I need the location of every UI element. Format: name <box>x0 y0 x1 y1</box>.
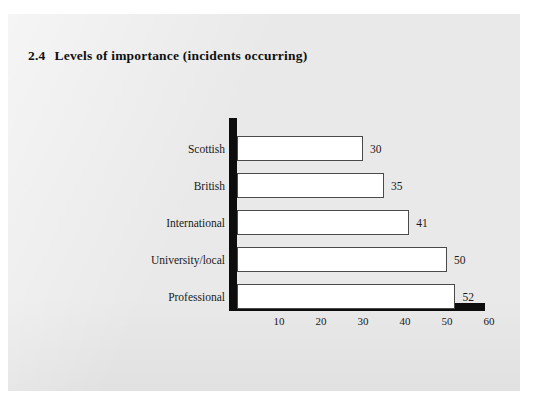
x-tick-label: 60 <box>484 315 495 327</box>
bar-value-label: 52 <box>462 291 474 303</box>
x-axis-tick-labels: 102030405060 <box>237 315 497 333</box>
bar-row: Scottish30 <box>237 136 497 161</box>
slide-page: 2.4Levels of importance (incidents occur… <box>8 14 520 391</box>
bar-category-label: Scottish <box>188 143 225 155</box>
x-tick-label: 40 <box>400 315 411 327</box>
bar-chart: Scottish30British35International41Univer… <box>8 14 520 391</box>
bar <box>237 284 455 309</box>
x-tick-label: 50 <box>442 315 453 327</box>
bar-category-label: Professional <box>168 291 225 303</box>
bar-series: Scottish30British35International41Univer… <box>237 118 497 303</box>
bar <box>237 136 363 161</box>
x-tick-label: 10 <box>274 315 285 327</box>
bar-row: Professional52 <box>237 284 497 309</box>
y-axis <box>229 118 237 303</box>
bar <box>237 210 409 235</box>
bar-row: International41 <box>237 210 497 235</box>
bar-value-label: 41 <box>416 217 428 229</box>
bar-value-label: 50 <box>454 254 466 266</box>
bar-value-label: 35 <box>391 180 403 192</box>
bar <box>237 173 384 198</box>
bar-row: University/local50 <box>237 247 497 272</box>
bar-row: British35 <box>237 173 497 198</box>
bar-category-label: British <box>194 180 225 192</box>
bar-category-label: University/local <box>151 254 225 266</box>
x-tick-label: 20 <box>316 315 327 327</box>
bar-value-label: 30 <box>370 143 382 155</box>
x-tick-label: 30 <box>358 315 369 327</box>
bar <box>237 247 447 272</box>
bar-category-label: International <box>166 217 225 229</box>
